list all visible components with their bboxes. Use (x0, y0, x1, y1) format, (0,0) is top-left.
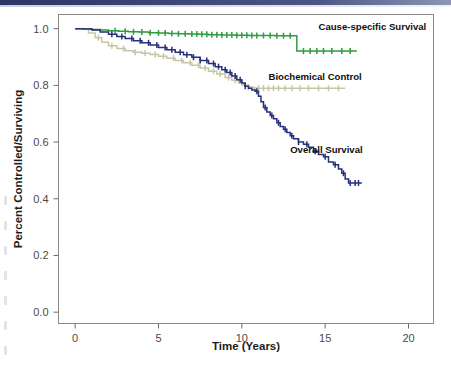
survival-chart-figure: 0.00.20.40.60.81.0 05101520 Cause-specif… (0, 0, 451, 365)
kaplan-meier-chart: 0.00.20.40.60.81.0 05101520 Cause-specif… (0, 0, 451, 365)
y-axis-ticks: 0.00.20.40.60.81.0 (33, 23, 58, 318)
series-label: Overall Survival (290, 144, 363, 155)
x-tick-label: 15 (319, 332, 331, 344)
y-tick-label: 0.2 (33, 249, 48, 261)
plot-panel-border (59, 15, 434, 324)
x-tick-label: 5 (155, 332, 161, 344)
x-axis-title: Time (Years) (212, 340, 280, 352)
series-label: Cause-specific Survival (319, 21, 427, 32)
y-tick-label: 0.6 (33, 136, 48, 148)
x-tick-label: 0 (72, 332, 78, 344)
x-tick-label: 20 (402, 332, 414, 344)
y-axis-title: Percent Controlled/Surviving (12, 90, 24, 248)
y-tick-label: 0.8 (33, 79, 48, 91)
y-tick-label: 0.0 (33, 306, 48, 318)
y-tick-label: 1.0 (33, 23, 48, 35)
series-label: Biochemical Control (269, 71, 362, 82)
figure-page: 0.00.20.40.60.81.0 05101520 Cause-specif… (0, 0, 451, 365)
y-tick-label: 0.4 (33, 193, 48, 205)
